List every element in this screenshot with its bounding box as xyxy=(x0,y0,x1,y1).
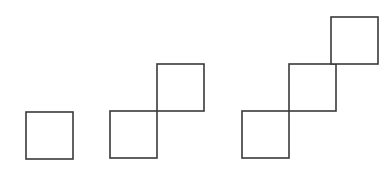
figure-1 xyxy=(26,112,73,159)
square-3-3 xyxy=(331,17,378,64)
square-1-1 xyxy=(26,112,73,159)
square-2-2 xyxy=(157,64,204,111)
figure-2 xyxy=(110,64,204,158)
figure-canvas xyxy=(0,0,389,176)
pattern-sequence-figure xyxy=(0,0,389,176)
figure-3 xyxy=(242,17,378,158)
square-3-2 xyxy=(289,64,336,111)
square-3-1 xyxy=(242,111,289,158)
square-2-1 xyxy=(110,111,157,158)
